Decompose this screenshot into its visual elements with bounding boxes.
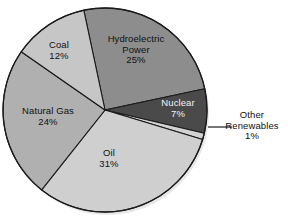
pie-chart-canvas — [0, 0, 288, 224]
pie-slices — [3, 8, 207, 212]
pie-chart: Hydroelectric Power 25% Nuclear 7% Other… — [0, 0, 288, 224]
